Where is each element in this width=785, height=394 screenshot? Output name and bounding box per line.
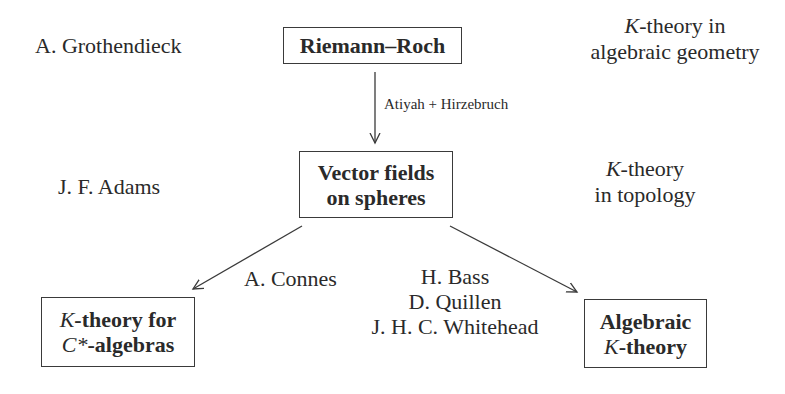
node-vector-fields: Vector fields on spheres — [299, 151, 453, 218]
node-algebraic-k-theory: Algebraic K-theory — [584, 299, 707, 368]
field-topology-line1: -theory — [621, 156, 685, 181]
edge-label-atiyah-hirzebruch: Atiyah + Hirzebruch — [384, 95, 508, 113]
node-riemann-roch-label: Riemann–Roch — [300, 33, 445, 58]
node-vector-fields-line2: on spheres — [326, 185, 425, 210]
field-algebraic-geometry: K-theory in algebraic geometry — [580, 13, 770, 65]
person-connes: A. Connes — [244, 266, 337, 292]
node-algebraic-k-theory-line2: -theory — [619, 334, 687, 359]
person-adams: J. F. Adams — [58, 174, 160, 200]
k-symbol: K — [604, 334, 619, 359]
field-topology-line2: in topology — [560, 182, 730, 208]
k-symbol: K — [625, 13, 640, 38]
node-k-theory-cstar-line2: -algebras — [87, 332, 174, 357]
person-whitehead: J. H. C. Whitehead — [340, 314, 570, 339]
node-k-theory-cstar: K-theory for C*-algebras — [41, 297, 195, 367]
field-algebraic-geometry-line2: algebraic geometry — [580, 39, 770, 65]
field-algebraic-geometry-line1: -theory in — [639, 13, 725, 38]
node-algebraic-k-theory-line1: Algebraic — [600, 309, 692, 334]
node-riemann-roch: Riemann–Roch — [283, 27, 462, 64]
node-k-theory-cstar-line1: -theory for — [74, 307, 176, 332]
k-symbol: K — [606, 156, 621, 181]
k-symbol: K — [60, 307, 75, 332]
people-algebraic-k: H. Bass D. Quillen J. H. C. Whitehead — [340, 264, 570, 339]
person-quillen: D. Quillen — [340, 289, 570, 314]
person-grothendieck: A. Grothendieck — [35, 33, 182, 59]
node-vector-fields-line1: Vector fields — [318, 160, 435, 185]
field-topology: K-theory in topology — [560, 156, 730, 208]
cstar-symbol: C* — [62, 332, 88, 357]
person-bass: H. Bass — [340, 264, 570, 289]
